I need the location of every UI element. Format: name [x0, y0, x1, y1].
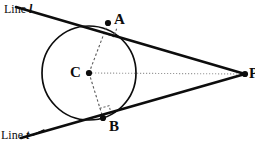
label-line-t: Line t — [1, 129, 29, 141]
point-dot-a — [105, 20, 111, 26]
label-line-l: Line l — [4, 3, 32, 15]
point-dot-external — [242, 71, 248, 77]
label-line-t-prefix: Line — [1, 128, 26, 142]
label-point-c: C — [70, 65, 81, 80]
line-l-tangent — [16, 7, 245, 74]
label-line-t-name: t — [26, 128, 29, 142]
point-dot-c — [86, 70, 92, 76]
segment-center-to-external-point — [89, 73, 245, 74]
label-line-l-name: l — [29, 2, 32, 16]
geometry-canvas — [0, 0, 255, 144]
label-external-point: P — [249, 66, 255, 81]
label-point-b: B — [109, 119, 119, 134]
label-line-l-prefix: Line — [4, 2, 29, 16]
point-dot-b — [100, 115, 106, 121]
segment-radius-cb — [89, 73, 103, 118]
label-point-a: A — [114, 12, 125, 27]
geometry-figure: A B C P Line l Line t — [0, 0, 255, 144]
